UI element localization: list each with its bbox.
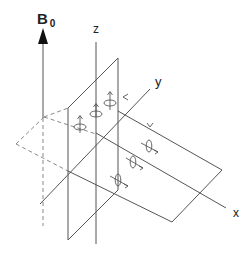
- x-axis-label: x: [233, 207, 239, 219]
- y-axis-label: y: [155, 75, 162, 88]
- x-axis: [96, 133, 226, 208]
- chevron-left-icon: [123, 94, 128, 100]
- spin-up-icon: [104, 92, 116, 111]
- spin-right-icon: [141, 140, 158, 154]
- spin-diagram: [0, 0, 252, 254]
- chevron-down-icon: [147, 123, 153, 127]
- y-axis: [40, 89, 150, 204]
- dashed-plane: [16, 108, 96, 226]
- b0-label: B0: [37, 11, 55, 26]
- horizontal-plane: [68, 111, 222, 222]
- z-axis-label: z: [93, 23, 99, 35]
- spin-up-icon: [90, 104, 102, 118]
- spin-right-icon: [110, 174, 128, 188]
- b0-field-arrow: [38, 28, 48, 118]
